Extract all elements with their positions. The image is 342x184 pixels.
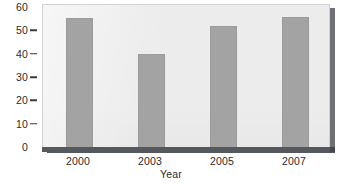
y-tick-label: 50 — [16, 24, 28, 36]
x-tick-label: 2007 — [282, 155, 306, 167]
plot-panel-right-edge — [330, 8, 335, 147]
y-tick-mark — [30, 53, 37, 55]
bar — [282, 17, 309, 149]
y-tick-mark — [30, 100, 37, 102]
x-tick-label: 2003 — [138, 155, 162, 167]
bar — [138, 54, 165, 148]
y-tick-mark — [30, 76, 37, 78]
bar — [66, 18, 93, 148]
x-axis-baseline — [42, 147, 330, 152]
bar-series — [43, 5, 329, 148]
y-tick-mark — [30, 123, 37, 125]
plot-area — [42, 4, 330, 149]
x-axis-baseline-corner — [330, 147, 335, 152]
y-tick-label: 20 — [16, 94, 28, 106]
y-tick-mark — [30, 30, 37, 32]
y-tick-label: 0 — [22, 141, 28, 153]
x-tick-label: 2005 — [210, 155, 234, 167]
y-tick-label: 40 — [16, 48, 28, 60]
y-tick-label: 60 — [16, 1, 28, 13]
x-tick-label: 2000 — [66, 155, 90, 167]
x-axis-title: Year — [0, 168, 342, 180]
y-tick-label: 30 — [16, 71, 28, 83]
bar — [210, 26, 237, 148]
bar-chart: 0102030405060 2000200320052007 Year — [0, 0, 342, 184]
y-axis: 0102030405060 — [0, 0, 42, 184]
y-tick-label: 10 — [16, 118, 28, 130]
